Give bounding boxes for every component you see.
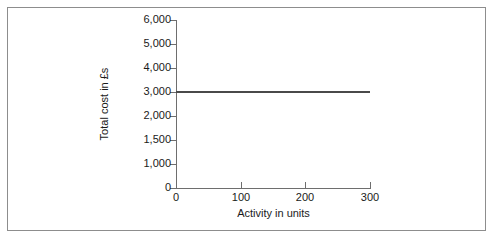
x-tick-mark [176, 182, 177, 189]
y-axis-title: Total cost in £s [99, 68, 110, 141]
y-tick-mark [170, 116, 177, 117]
y-tick-label: 6,000 [143, 14, 171, 25]
x-tick-mark [241, 182, 242, 189]
series-line-total-cost [176, 91, 370, 93]
y-tick-mark [170, 68, 177, 69]
y-tick-label: 3,000 [143, 86, 171, 97]
chart-plot-area: 6,000 5,000 4,000 3,000 2,000 1,500 1,00… [0, 0, 497, 242]
y-tick-mark [170, 20, 177, 21]
y-tick-mark [170, 140, 177, 141]
y-tick-label: 1,500 [143, 134, 171, 145]
figure-container: 6,000 5,000 4,000 3,000 2,000 1,500 1,00… [0, 0, 497, 242]
y-tick-label: 2,000 [143, 110, 171, 121]
y-tick-mark [170, 44, 177, 45]
x-tick-label: 300 [350, 192, 390, 203]
x-tick-mark [370, 182, 371, 189]
x-tick-label: 0 [156, 192, 196, 203]
x-tick-label: 100 [221, 192, 261, 203]
x-axis-line [176, 188, 371, 189]
x-tick-mark [305, 182, 306, 189]
y-tick-label: 4,000 [143, 62, 171, 73]
y-tick-label: 1,000 [143, 158, 171, 169]
x-tick-label: 200 [285, 192, 325, 203]
y-tick-mark [170, 164, 177, 165]
y-tick-label: 5,000 [143, 38, 171, 49]
x-axis-title: Activity in units [176, 208, 371, 219]
